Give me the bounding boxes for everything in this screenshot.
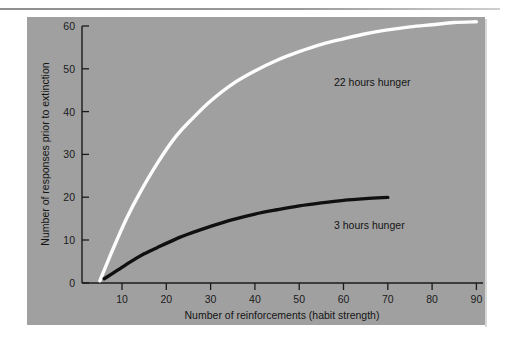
y-tick-label: 30 bbox=[63, 148, 75, 160]
y-tick-label: 10 bbox=[63, 234, 75, 246]
y-tick-label: 50 bbox=[63, 63, 75, 75]
series-annotation-22-hours-hunger: 22 hours hunger bbox=[334, 76, 411, 88]
y-tick-label: 0 bbox=[69, 277, 75, 289]
x-tick-label: 30 bbox=[205, 293, 217, 305]
y-axis-ticks bbox=[82, 26, 89, 283]
y-tick-label: 60 bbox=[63, 20, 75, 32]
series-line-3-hours-hunger bbox=[104, 197, 388, 278]
x-tick-label: 40 bbox=[249, 293, 261, 305]
series-line-22-hours-hunger bbox=[100, 22, 477, 281]
x-axis-ticks bbox=[122, 283, 476, 290]
x-tick-label: 10 bbox=[116, 293, 128, 305]
x-tick-label: 60 bbox=[338, 293, 350, 305]
page-top-rule bbox=[0, 8, 500, 10]
y-axis-title: Number of responses prior to extinction bbox=[39, 62, 51, 245]
x-tick-label: 20 bbox=[160, 293, 172, 305]
x-tick-label: 90 bbox=[471, 293, 483, 305]
series-annotation-3-hours-hunger: 3 hours hunger bbox=[334, 219, 405, 231]
x-tick-label: 80 bbox=[426, 293, 438, 305]
chart-panel: 60 50 40 30 20 10 0 10 20 30 40 50 bbox=[27, 17, 485, 325]
x-tick-label: 50 bbox=[293, 293, 305, 305]
x-axis-title: Number of reinforcements (habit strength… bbox=[185, 309, 380, 321]
y-tick-label: 20 bbox=[63, 191, 75, 203]
x-tick-label: 70 bbox=[382, 293, 394, 305]
y-tick-label: 40 bbox=[63, 106, 75, 118]
chart-svg: 60 50 40 30 20 10 0 10 20 30 40 50 bbox=[27, 17, 485, 325]
x-axis-tick-labels: 10 20 30 40 50 60 70 80 90 bbox=[116, 293, 482, 305]
y-axis-tick-labels: 60 50 40 30 20 10 0 bbox=[63, 20, 75, 289]
